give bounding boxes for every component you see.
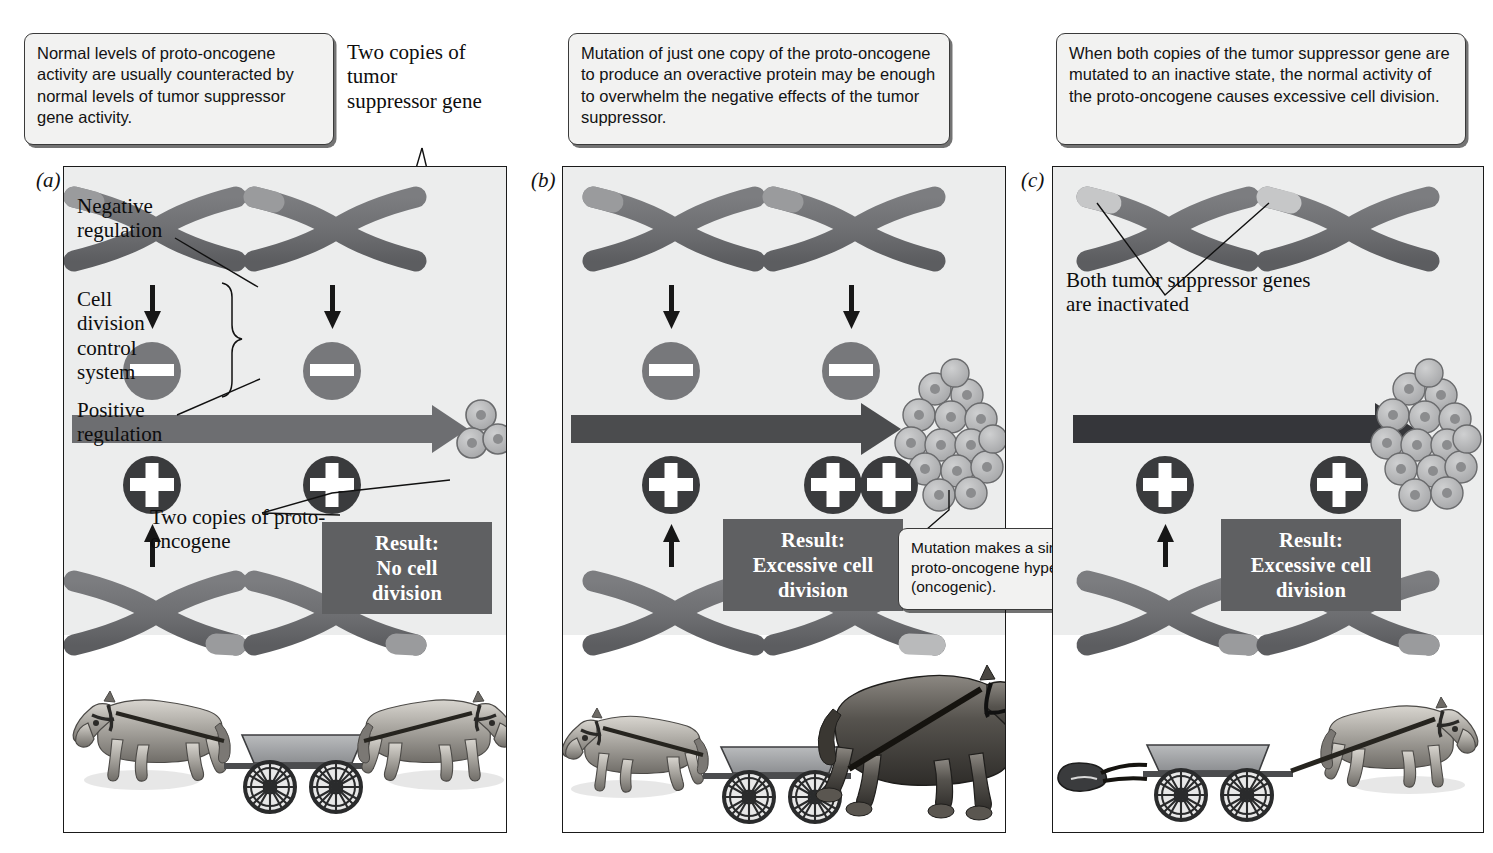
plus-symbol-right <box>804 456 862 514</box>
plus-symbol-left <box>642 456 700 514</box>
horse-small-left <box>562 708 708 798</box>
arrow-down-right <box>843 285 860 329</box>
arrow-down-left <box>663 285 680 329</box>
chromosome-top-left-inactivated <box>1087 197 1249 261</box>
result-c-heading: Result: <box>1279 528 1343 553</box>
callout-panel-a: Normal levels of proto-oncogene activity… <box>24 33 334 145</box>
plus-symbol-right <box>1310 456 1368 514</box>
panel-c-graphics <box>1053 167 1483 832</box>
arrow-down-right <box>324 285 341 329</box>
result-b-line1: Excessive cell <box>753 553 874 578</box>
cart <box>1143 745 1293 820</box>
callout-b-text: Mutation of just one copy of the proto-o… <box>581 44 935 126</box>
result-box-c: Result: Excessive cell division <box>1221 519 1401 611</box>
result-a-line2: division <box>372 581 442 606</box>
minus-symbol-left <box>642 342 700 400</box>
result-b-line2: division <box>778 578 848 603</box>
horse-cart-illustration-a <box>73 691 507 812</box>
horse-cart-illustration-b <box>562 665 1006 822</box>
panel-letter-c: (c) <box>1021 168 1044 193</box>
outcome-tumor-mass <box>1371 359 1481 511</box>
result-a-line1: No cell <box>376 556 437 581</box>
minus-symbol-right <box>303 342 361 400</box>
label-both-inactivated: Both tumor suppressor genes are inactiva… <box>1066 268 1326 317</box>
callout-a-text: Normal levels of proto-oncogene activity… <box>37 44 294 126</box>
label-two-copies-tumor-suppressor-text: Two copies of tumor suppressor gene <box>347 40 482 113</box>
callout-panel-c: When both copies of the tumor suppressor… <box>1056 33 1466 145</box>
callout-c-text: When both copies of the tumor suppressor… <box>1069 44 1450 105</box>
plus-symbol-left <box>1136 456 1194 514</box>
label-two-copies-tumor-suppressor: Two copies of tumor suppressor gene <box>347 40 487 113</box>
horse-cart-illustration-c <box>1058 697 1478 820</box>
cell-division-arrow <box>1073 403 1415 455</box>
panel-c: Result: Excessive cell division <box>1052 166 1484 833</box>
cell-division-arrow <box>571 403 901 455</box>
empty-harness <box>1058 763 1147 791</box>
panel-letter-a: (a) <box>36 168 61 193</box>
result-c-line2: division <box>1276 578 1346 603</box>
cart <box>224 735 374 812</box>
horse-large-draft-right <box>816 665 1006 820</box>
horse-right <box>1291 697 1478 794</box>
result-c-line1: Excessive cell <box>1251 553 1372 578</box>
result-box-a: Result: No cell division <box>322 522 492 614</box>
result-box-b: Result: Excessive cell division <box>723 519 903 611</box>
result-b-heading: Result: <box>781 528 845 553</box>
panel-a-leader-lines <box>150 225 310 525</box>
chromosome-top-left <box>593 197 755 261</box>
result-a-heading: Result: <box>375 531 439 556</box>
chromosome-bottom-left <box>74 581 236 645</box>
arrow-up-left <box>663 524 680 567</box>
horse-right <box>358 691 507 790</box>
horse-left <box>73 691 230 790</box>
chromosome-top-right <box>773 197 935 261</box>
chromosome-top-right-inactivated <box>1267 197 1429 261</box>
minus-symbol-right <box>822 342 880 400</box>
callout-panel-b: Mutation of just one copy of the proto-o… <box>568 33 950 145</box>
panel-letter-b: (b) <box>531 168 556 193</box>
arrow-up-left <box>1157 524 1174 567</box>
